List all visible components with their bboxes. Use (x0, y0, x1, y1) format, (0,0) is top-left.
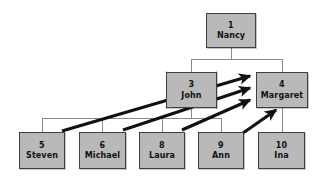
node-id: 5 (39, 141, 45, 150)
node-ina[interactable]: 10 Ina (258, 132, 305, 169)
node-name: Ann (212, 151, 230, 160)
node-id: 8 (159, 141, 165, 150)
node-id: 3 (189, 80, 195, 89)
node-id: 6 (100, 141, 106, 150)
node-nancy[interactable]: 1 Nancy (206, 13, 256, 48)
node-name: Ina (274, 151, 288, 160)
arrow-9-to-4 (243, 110, 276, 133)
node-margaret[interactable]: 4 Margaret (256, 72, 308, 108)
node-steven[interactable]: 5 Steven (19, 132, 65, 169)
node-john[interactable]: 3 John (166, 72, 217, 108)
diagram-canvas: 1 Nancy 3 John 4 Margaret 5 Steven 6 Mic… (0, 0, 322, 181)
node-id: 10 (276, 141, 288, 150)
node-id: 4 (279, 80, 285, 89)
node-name: Margaret (261, 91, 303, 100)
node-id: 9 (218, 141, 224, 150)
node-name: Nancy (217, 31, 245, 40)
node-id: 1 (228, 21, 234, 30)
node-name: Steven (26, 151, 58, 160)
node-name: Michael (85, 151, 120, 160)
node-ann[interactable]: 9 Ann (198, 132, 244, 169)
arrow-5-to-4 (62, 76, 250, 131)
node-name: Laura (149, 151, 175, 160)
node-michael[interactable]: 6 Michael (79, 132, 126, 169)
node-laura[interactable]: 8 Laura (139, 132, 185, 169)
node-name: John (181, 91, 201, 100)
